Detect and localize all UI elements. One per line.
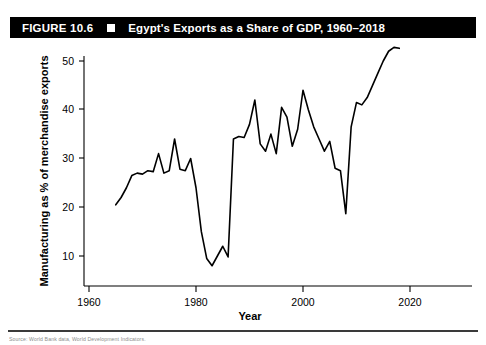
source-note-text: Source: World Bank data, World Developme… bbox=[9, 336, 479, 342]
figure-title-text: Egypt's Exports as a Share of GDP, 1960–… bbox=[128, 22, 385, 34]
x-tick-label-1980: 1980 bbox=[184, 296, 208, 308]
line-chart-svg: 50 40 30 20 10 1960 1980 2000 2020 Year … bbox=[0, 38, 486, 320]
y-tick-label-40: 40 bbox=[62, 103, 74, 115]
y-axis-ticks: 50 40 30 20 10 bbox=[62, 55, 84, 262]
y-tick-label-20: 20 bbox=[62, 201, 74, 213]
footer-divider bbox=[8, 330, 478, 332]
figure-container: FIGURE 10.6 Egypt's Exports as a Share o… bbox=[0, 0, 486, 345]
y-tick-label-50: 50 bbox=[62, 55, 74, 67]
y-tick-label-10: 10 bbox=[62, 250, 74, 262]
x-tick-label-2000: 2000 bbox=[291, 296, 315, 308]
figure-number-label: FIGURE 10.6 bbox=[22, 22, 93, 34]
x-tick-label-2020: 2020 bbox=[398, 296, 422, 308]
y-axis-title: Manufacturing as % of merchandise export… bbox=[38, 55, 50, 286]
square-bullet-icon bbox=[107, 24, 115, 32]
x-tick-label-1960: 1960 bbox=[77, 296, 101, 308]
x-axis-title: Year bbox=[238, 310, 262, 320]
y-tick-label-30: 30 bbox=[62, 152, 74, 164]
x-axis-ticks: 1960 1980 2000 2020 bbox=[77, 286, 422, 308]
figure-title-bar: FIGURE 10.6 Egypt's Exports as a Share o… bbox=[10, 17, 476, 38]
chart-plot-area: 50 40 30 20 10 1960 1980 2000 2020 Year … bbox=[0, 38, 486, 320]
exports-share-series-line bbox=[116, 47, 400, 265]
